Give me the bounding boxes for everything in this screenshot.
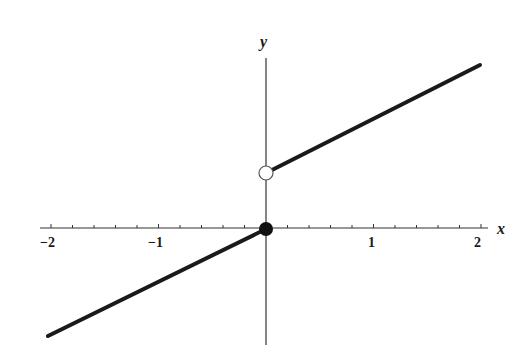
y-axis-label: y — [260, 33, 267, 51]
x-axis-label: x — [497, 220, 505, 238]
x-tick-label-minus-1: −1 — [148, 235, 163, 251]
right-line-segment — [272, 65, 480, 170]
x-tick-label-minus-2: −2 — [40, 235, 55, 251]
open-circle-marker — [259, 166, 273, 180]
x-tick-label-2: 2 — [474, 235, 481, 251]
x-tick-label-1: 1 — [368, 235, 375, 251]
filled-circle-marker — [259, 222, 273, 236]
function-graph — [0, 0, 527, 363]
